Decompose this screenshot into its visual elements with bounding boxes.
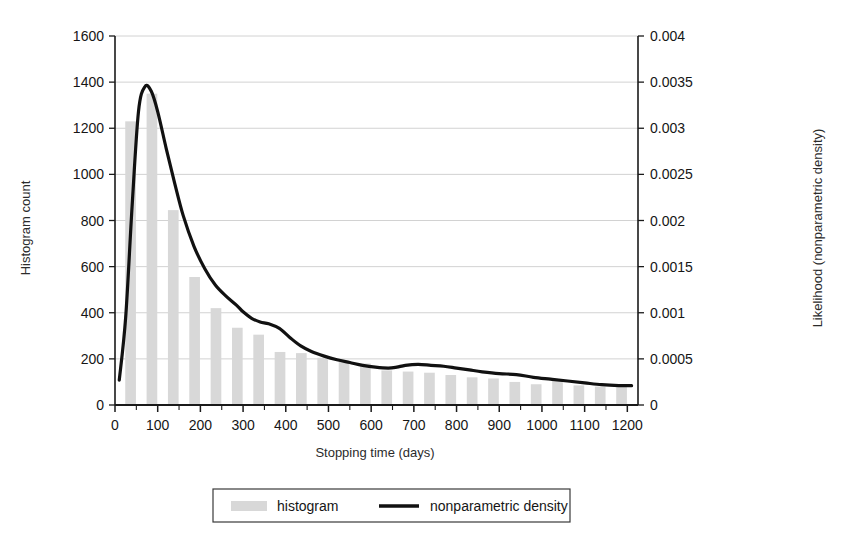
- legend-swatch-histogram: [231, 501, 267, 511]
- histogram-bar: [360, 363, 371, 405]
- chart-figure: 0200400600800100012001400160000.00050.00…: [0, 0, 846, 551]
- legend-label-nonparametric-density: nonparametric density: [430, 498, 568, 514]
- y-axis-tick-label: 800: [81, 213, 105, 229]
- y-axis-tick-label: 400: [81, 305, 105, 321]
- histogram-bar: [189, 277, 200, 405]
- histogram-bar: [211, 308, 222, 405]
- x-axis-title: Stopping time (days): [315, 445, 434, 460]
- y-axis-tick-label: 1600: [73, 28, 104, 44]
- y-axis-title: Histogram count: [18, 180, 33, 275]
- histogram-bar: [424, 373, 435, 405]
- histogram-bar: [574, 385, 585, 405]
- y2-axis-tick-label: 0.0035: [650, 74, 693, 90]
- y2-axis-tick-label: 0.0015: [650, 259, 693, 275]
- x-axis-tick-label: 0: [111, 417, 119, 433]
- legend-label-histogram: histogram: [277, 498, 338, 514]
- y-axis-tick-label: 0: [96, 397, 104, 413]
- y2-axis-tick-label: 0.001: [650, 305, 685, 321]
- x-axis-tick-label: 300: [231, 417, 255, 433]
- y-axis-tick-label: 200: [81, 351, 105, 367]
- x-axis-tick-label: 500: [317, 417, 341, 433]
- histogram-bar: [317, 358, 328, 405]
- histogram-bar: [381, 370, 392, 405]
- x-axis-tick-label: 200: [189, 417, 213, 433]
- x-axis-tick-label: 1200: [612, 417, 643, 433]
- x-axis-tick-label: 400: [274, 417, 298, 433]
- x-axis-tick-label: 900: [488, 417, 512, 433]
- x-axis-tick-label: 600: [359, 417, 383, 433]
- histogram-bar: [147, 94, 158, 405]
- y2-axis-tick-label: 0.0005: [650, 351, 693, 367]
- y-axis-tick-label: 600: [81, 259, 105, 275]
- y2-axis-tick-label: 0.004: [650, 28, 685, 44]
- histogram-bar: [296, 353, 307, 405]
- y2-axis-tick-label: 0.003: [650, 120, 685, 136]
- chart-legend: histogram nonparametric density: [213, 489, 570, 522]
- histogram-bar: [531, 384, 542, 405]
- x-axis-tick-label: 1100: [570, 417, 600, 433]
- histogram-bar: [232, 328, 243, 405]
- x-axis-tick-label: 1000: [526, 417, 557, 433]
- histogram-bar: [616, 387, 627, 405]
- histogram-bar: [403, 372, 414, 405]
- histogram-bar: [445, 375, 456, 405]
- histogram-bar: [168, 210, 179, 405]
- x-axis-tick-label: 700: [402, 417, 426, 433]
- histogram-bar: [467, 377, 478, 405]
- y-axis-tick-label: 1200: [73, 120, 104, 136]
- y2-axis-tick-label: 0: [650, 397, 658, 413]
- y2-axis-tick-label: 0.002: [650, 213, 685, 229]
- histogram-bar: [275, 352, 286, 405]
- y-axis-tick-label: 1400: [73, 74, 104, 90]
- histogram-bar: [595, 387, 606, 405]
- x-axis-tick-label: 800: [445, 417, 469, 433]
- histogram-bar: [253, 335, 264, 405]
- y2-axis-tick-label: 0.0025: [650, 166, 693, 182]
- y2-axis-title: Likelihood (nonparametric density): [810, 129, 825, 328]
- x-axis-tick-label: 100: [146, 417, 170, 433]
- y-axis-tick-label: 1000: [73, 166, 104, 182]
- histogram-bar: [488, 378, 499, 405]
- histogram-bar: [552, 380, 563, 405]
- histogram-bar: [339, 361, 350, 405]
- histogram-bar: [509, 382, 520, 405]
